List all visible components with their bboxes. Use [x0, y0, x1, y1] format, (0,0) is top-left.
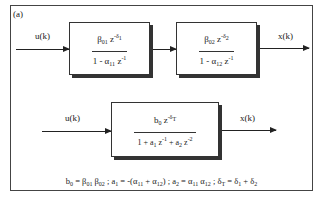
diagram-frame — [10, 5, 313, 191]
block-2-fraction-bar — [199, 51, 234, 52]
block-combined-fraction-bar — [134, 132, 196, 133]
block-1-denominator: 1 - α11 z-1 — [70, 55, 149, 67]
top-output-label: x(k) — [278, 31, 293, 41]
block-1: β01 z-δ1 1 - α11 z-1 — [69, 22, 150, 75]
bottom-output-arrow — [222, 130, 276, 131]
bottom-input-label: u(k) — [65, 113, 80, 123]
top-input-arrow — [16, 49, 69, 50]
middle-arrow — [153, 49, 176, 50]
top-input-label: u(k) — [35, 31, 50, 41]
block-combined-denominator: 1 + a1 z-1 + a2 z-2 — [112, 136, 218, 148]
top-output-arrow — [260, 48, 309, 49]
block-combined: b0 z-δT 1 + a1 z-1 + a2 z-2 — [111, 102, 219, 157]
block-2-denominator: 1 - α12 z-1 — [177, 55, 256, 67]
block-2: β02 z-δ2 1 - α12 z-1 — [176, 22, 257, 75]
panel-label: (a) — [13, 9, 23, 19]
parameter-relations: b0 = β01 β02 ; a1 = -(α11 + α12) ; a2 = … — [0, 176, 323, 187]
block-2-numerator: β02 z-δ2 — [177, 33, 256, 45]
block-1-numerator: β01 z-δ1 — [70, 33, 149, 45]
bottom-input-arrow — [42, 131, 111, 132]
block-combined-numerator: b0 z-δT — [112, 114, 218, 126]
block-1-fraction-bar — [92, 51, 127, 52]
bottom-output-label: x(k) — [240, 113, 255, 123]
